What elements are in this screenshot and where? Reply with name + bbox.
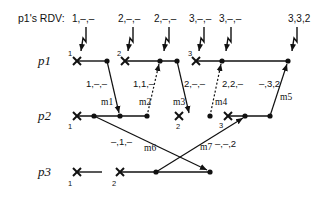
message-vector-m6: –,1,–	[111, 136, 133, 147]
checkpoint-label: 2	[117, 49, 121, 58]
checkpoint-icon	[175, 112, 183, 120]
process-label-p3: p3	[37, 164, 52, 179]
rdv-value: 1,–,–	[72, 13, 95, 24]
rdv-value: 3,–,–	[219, 13, 242, 24]
message-vector-m1: 1,–,–	[86, 78, 108, 89]
checkpoint-label: 2	[176, 122, 180, 131]
message-m2	[147, 64, 159, 116]
message-label-m5: m5	[280, 92, 292, 102]
message-label-m3: m3	[173, 97, 185, 107]
message-label-m6: m6	[144, 143, 156, 153]
checkpoint-label: 2	[112, 179, 116, 188]
checkpoint-label: 3	[188, 49, 192, 58]
rdv-value: 2,–,–	[154, 13, 177, 24]
message-vector-m5: –,3,2	[259, 78, 280, 89]
message-label-m1: m1	[101, 97, 113, 107]
process-label-p1: p1	[37, 53, 51, 68]
lightning-arrow-icon	[226, 27, 231, 51]
checkpoint-label: 3	[219, 121, 223, 130]
message-label-m4: m4	[215, 97, 227, 107]
rdv-value: 3,3,2	[288, 13, 311, 24]
rdv-header-label: p1's RDV:	[18, 12, 65, 24]
checkpoint-label: 1	[68, 122, 72, 131]
rdv-diagram: p1's RDV: p1 p2 p3 1 2 3 1 2 3 1 2	[0, 0, 322, 197]
lightning-arrow-icon	[199, 27, 204, 51]
message-vector-m3: 2,–,–	[184, 78, 206, 89]
lightning-arrow-icon	[81, 27, 86, 51]
message-label-m7: m7	[200, 142, 212, 152]
message-m5	[270, 64, 287, 116]
message-vector-m4: 2,2,–	[222, 78, 244, 89]
process-label-p2: p2	[37, 108, 52, 123]
message-vector-m7: –,–,2	[215, 138, 236, 149]
checkpoint-label: 1	[68, 179, 72, 188]
rdv-value: 3,–,–	[189, 13, 212, 24]
lightning-arrow-icon	[164, 27, 169, 51]
message-label-m2: m2	[139, 97, 151, 107]
lightning-arrow-icon	[128, 27, 133, 51]
checkpoint-label: 1	[68, 49, 72, 58]
message-m4	[210, 64, 221, 116]
lightning-arrow-icon	[292, 27, 297, 51]
message-vector-m2: 1,1,–	[133, 78, 155, 89]
rdv-value: 2,–,–	[118, 13, 141, 24]
